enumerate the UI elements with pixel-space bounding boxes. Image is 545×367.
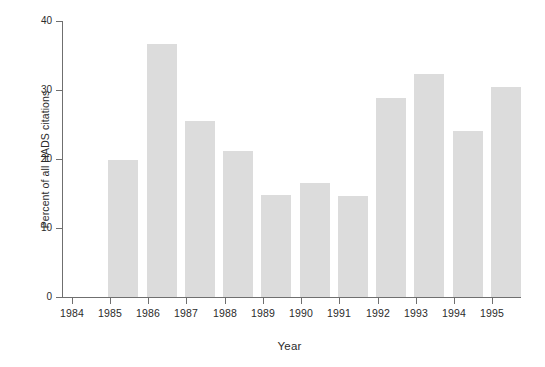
y-axis-tick-label: 0 [30,292,52,302]
y-axis-tick-label: 40 [30,16,52,26]
y-axis-tick-label-wrap: 0 [28,292,52,302]
x-axis-tick [72,298,73,304]
x-axis-tick-label: 1995 [469,307,515,319]
x-axis-tick [378,298,379,304]
x-axis-title: Year [58,340,521,352]
x-axis-tick [339,298,340,304]
y-axis-tick-label-wrap: 30 [28,85,52,95]
bar [223,151,253,297]
y-axis-tick [56,21,62,22]
bar [338,196,368,297]
bar [453,131,483,297]
x-axis-tick [110,298,111,304]
x-axis-line [62,297,521,298]
bar [376,98,406,297]
x-axis-tick [186,298,187,304]
bar [185,121,215,297]
bar [261,195,291,297]
y-axis-tick [56,228,62,229]
bar [108,160,138,297]
y-axis-tick-label-wrap: 20 [28,154,52,164]
bar [147,44,177,297]
x-axis-tick [301,298,302,304]
x-axis-tick [416,298,417,304]
y-axis-tick [56,90,62,91]
bar-chart-figure: Percent of all HADS citations 010203040 … [0,0,545,367]
bar [491,87,521,297]
y-axis-tick-label: 10 [30,223,52,233]
y-axis-tick-label-wrap: 10 [28,223,52,233]
y-axis-tick-label-wrap: 40 [28,16,52,26]
y-axis-line [62,21,63,298]
x-axis-tick [148,298,149,304]
x-axis-tick [492,298,493,304]
y-axis-tick [56,297,62,298]
bar [300,183,330,297]
y-axis-tick [56,159,62,160]
y-axis-tick-label: 20 [30,154,52,164]
x-axis-tick [225,298,226,304]
x-axis-tick [454,298,455,304]
x-axis-tick [263,298,264,304]
y-axis-tick-label: 30 [30,85,52,95]
bar [414,74,444,297]
